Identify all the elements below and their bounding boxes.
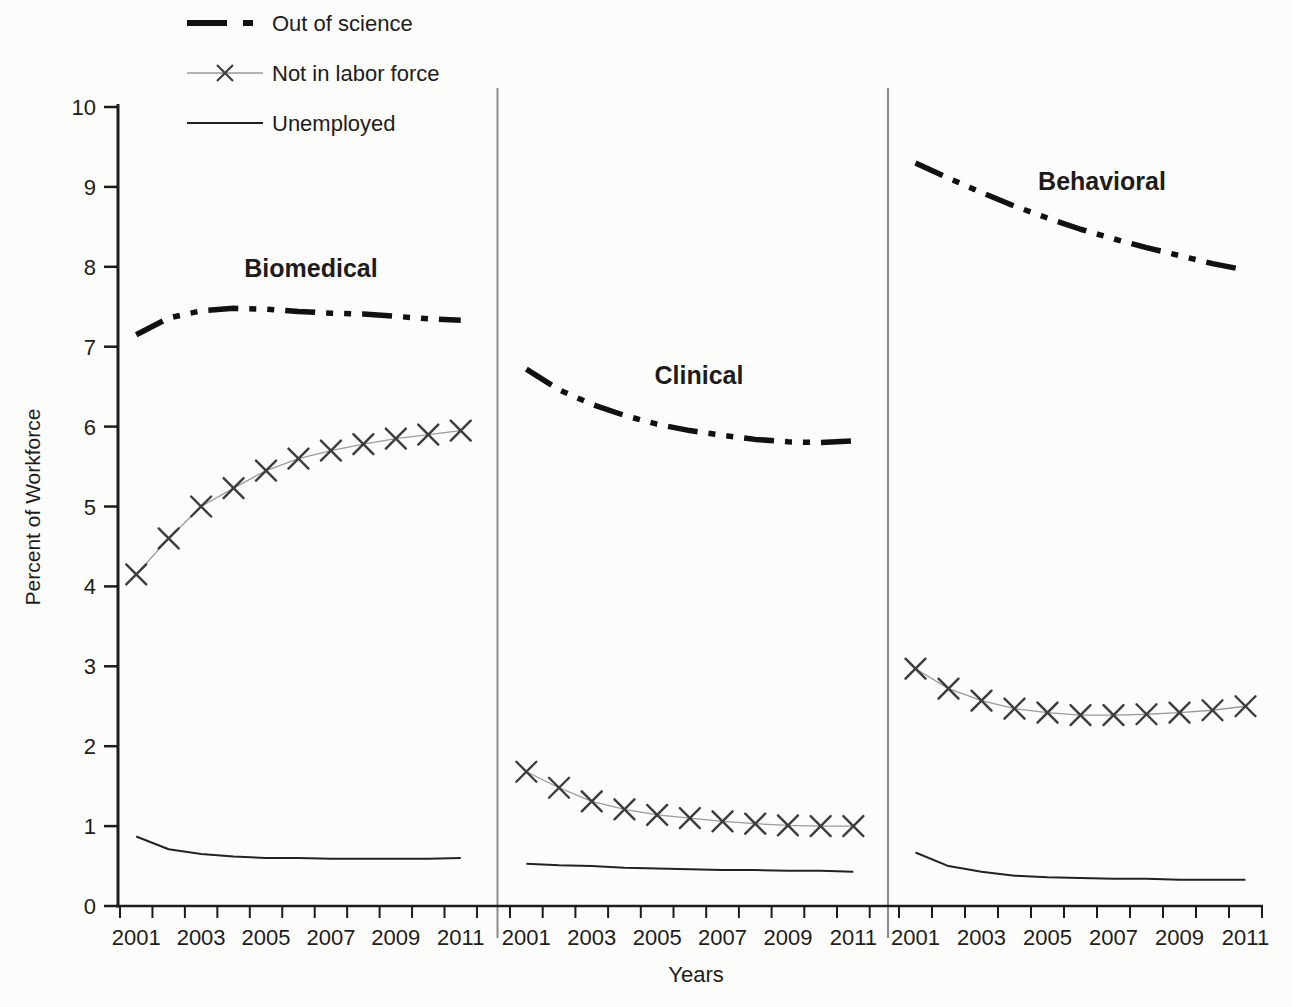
x-tick-label-year: 2011 — [437, 925, 484, 950]
y-tick-label: 2 — [84, 734, 96, 759]
y-tick-label: 10 — [72, 95, 96, 120]
y-tick-label: 1 — [84, 814, 96, 839]
x-tick-label-year: 2001 — [112, 925, 161, 950]
x-tick-label-year: 2001 — [891, 925, 940, 950]
x-tick-label-year: 2001 — [502, 925, 551, 950]
figure-background — [0, 0, 1292, 1007]
panel-title-clinical: Clinical — [655, 361, 744, 389]
y-tick-label: 0 — [84, 894, 96, 919]
x-tick-label-year: 2007 — [306, 925, 355, 950]
y-tick-label: 3 — [84, 654, 96, 679]
y-tick-label: 5 — [84, 495, 96, 520]
three-panel-line-chart-figure: 012345678910200120032005200720092011Biom… — [0, 0, 1292, 1007]
x-tick-label-year: 2003 — [957, 925, 1006, 950]
x-tick-label-year: 2009 — [763, 925, 812, 950]
chart-canvas: 012345678910200120032005200720092011Biom… — [0, 0, 1292, 1007]
x-tick-label-year: 2005 — [242, 925, 291, 950]
y-tick-label: 7 — [84, 335, 96, 360]
panel-title-behavioral: Behavioral — [1038, 167, 1166, 195]
x-tick-label-year: 2003 — [177, 925, 226, 950]
x-axis-title: Years — [668, 962, 723, 987]
legend-label-unemployed: Unemployed — [272, 111, 396, 136]
y-tick-label: 4 — [84, 574, 96, 599]
legend-label-not-in-labor-force: Not in labor force — [272, 61, 440, 86]
y-tick-label: 8 — [84, 255, 96, 280]
x-tick-label-year: 2005 — [1023, 925, 1072, 950]
x-tick-label-year: 2007 — [1089, 925, 1138, 950]
legend-label-out-of-science: Out of science — [272, 11, 413, 36]
y-tick-label: 9 — [84, 175, 96, 200]
x-tick-label-year: 2011 — [830, 925, 877, 950]
y-tick-label: 6 — [84, 415, 96, 440]
panel-title-biomedical: Biomedical — [244, 254, 377, 282]
x-tick-label-year: 2009 — [1155, 925, 1204, 950]
x-tick-label-year: 2003 — [567, 925, 616, 950]
y-axis-title: Percent of Workforce — [21, 409, 44, 606]
x-tick-label-year: 2011 — [1222, 925, 1269, 950]
x-tick-label-year: 2005 — [633, 925, 682, 950]
x-tick-label-year: 2009 — [371, 925, 420, 950]
x-tick-label-year: 2007 — [698, 925, 747, 950]
